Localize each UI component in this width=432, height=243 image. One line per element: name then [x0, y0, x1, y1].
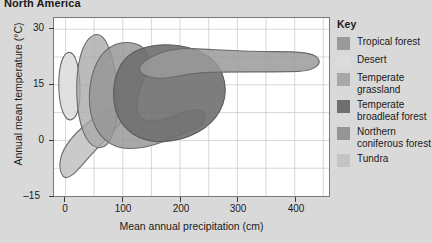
legend-swatch-tundra: [337, 154, 350, 167]
legend-title: Key: [337, 18, 432, 30]
legend: Key Tropical forest Desert Temperate gra…: [337, 18, 432, 171]
envelope-tropical-forest: [140, 49, 320, 79]
legend-label-desert: Desert: [357, 54, 386, 66]
legend-item-tundra: Tundra: [337, 153, 432, 167]
legend-swatch-tropical-forest: [337, 37, 350, 50]
x-tick-label-300: 300: [223, 203, 253, 214]
y-axis-title: Annual mean temperature (°C): [12, 14, 24, 174]
legend-item-tropical-forest: Tropical forest: [337, 36, 432, 50]
x-tick-mark-300: [237, 197, 238, 202]
y-tick-mark-m15: [49, 196, 54, 197]
y-tick-mark-30: [49, 28, 54, 29]
legend-label-northern-coniferous-forest: Northern coniferous forest: [357, 126, 432, 149]
x-tick-mark-0: [64, 197, 65, 202]
x-tick-label-0: 0: [50, 203, 80, 214]
legend-swatch-northern-coniferous-forest: [337, 127, 350, 140]
x-tick-mark-100: [122, 197, 123, 202]
y-tick-label-m15: –15: [14, 190, 40, 201]
x-axis-title: Mean annual precipitation (cm): [53, 220, 330, 232]
y-tick-mark-0: [49, 140, 54, 141]
legend-swatch-temperate-grassland: [337, 73, 350, 86]
legend-swatch-temperate-broadleaf-forest: [337, 100, 350, 113]
legend-item-desert: Desert: [337, 54, 432, 68]
x-tick-label-100: 100: [108, 203, 138, 214]
legend-item-northern-coniferous-forest: Northern coniferous forest: [337, 126, 432, 149]
biome-envelopes: [54, 18, 329, 196]
legend-label-temperate-broadleaf-forest: Temperate broadleaf forest: [357, 99, 432, 122]
x-tick-mark-400: [295, 197, 296, 202]
legend-item-temperate-grassland: Temperate grassland: [337, 72, 432, 95]
legend-label-tropical-forest: Tropical forest: [357, 36, 420, 48]
x-tick-label-400: 400: [281, 203, 311, 214]
x-tick-mark-200: [180, 197, 181, 202]
page-title: North America: [4, 0, 81, 9]
legend-item-temperate-broadleaf-forest: Temperate broadleaf forest: [337, 99, 432, 122]
biome-climate-chart-figure: North America: [0, 0, 432, 243]
x-tick-label-200: 200: [166, 203, 196, 214]
plot-area: [53, 17, 330, 197]
legend-label-tundra: Tundra: [357, 153, 388, 165]
legend-label-temperate-grassland: Temperate grassland: [357, 72, 432, 95]
y-tick-mark-15: [49, 84, 54, 85]
legend-swatch-desert: [337, 55, 350, 68]
